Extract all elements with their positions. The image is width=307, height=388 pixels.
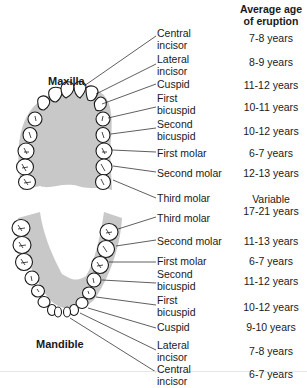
maxilla-age-cuspid: 11-12 years (238, 80, 304, 92)
mandible-age-cuspid: 9-10 years (238, 322, 304, 334)
third-molar-age: Variable 17-21 years (238, 194, 304, 217)
maxilla-age-central-incisor: 7-8 years (238, 33, 304, 45)
maxilla-label-cuspid: Cuspid (157, 79, 190, 91)
maxilla-age-first-bicuspid: 10-11 years (238, 102, 304, 114)
maxilla-label-central-incisor: Central incisor (157, 28, 191, 51)
mandible-age-second-bicuspid: 11-12 years (238, 276, 304, 288)
mandible-label-first-molar: First molar (157, 256, 207, 268)
age-header-line1: Average age (236, 3, 306, 15)
mandible-label-third-molar: Third molar (157, 213, 210, 225)
maxilla-label-second-molar: Second molar (157, 168, 222, 180)
mandible-label-first-bicuspid: First bicuspid (157, 295, 196, 318)
mandible-label-second-bicuspid: Second bicuspid (157, 269, 196, 292)
maxilla-label-second-bicuspid: Second bicuspid (157, 119, 196, 142)
maxilla-label-third-molar: Third molar (157, 193, 210, 205)
maxilla-age-second-bicuspid: 10-12 years (238, 126, 304, 138)
mandible-label-second-molar: Second molar (157, 236, 222, 248)
maxilla-age-second-molar: 12-13 years (238, 168, 304, 180)
maxilla-age-lateral-incisor: 8-9 years (238, 57, 304, 69)
mandible-age-first-bicuspid: 10-12 years (238, 302, 304, 314)
maxilla-title: Maxilla (48, 75, 85, 87)
age-header-line2: of eruption (236, 15, 306, 27)
mandible-label-cuspid: Cuspid (157, 322, 190, 334)
mandible-age-first-molar: 6-7 years (238, 256, 304, 268)
mandible-label-lateral-incisor: Lateral incisor (157, 340, 189, 363)
age-column-header: Average age of eruption (236, 3, 306, 27)
maxilla-label-first-molar: First molar (157, 148, 207, 160)
mandible-title: Mandible (36, 338, 84, 350)
mandible-age-lateral-incisor: 7-8 years (238, 346, 304, 358)
maxilla-label-first-bicuspid: First bicuspid (157, 93, 196, 116)
mandible-label-central-incisor: Central incisor (157, 364, 191, 387)
maxilla-age-first-molar: 6-7 years (238, 148, 304, 160)
maxilla-label-lateral-incisor: Lateral incisor (157, 54, 189, 77)
mandible-age-central-incisor: 6-7 years (238, 369, 304, 381)
mandible-age-second-molar: 11-13 years (238, 236, 304, 248)
